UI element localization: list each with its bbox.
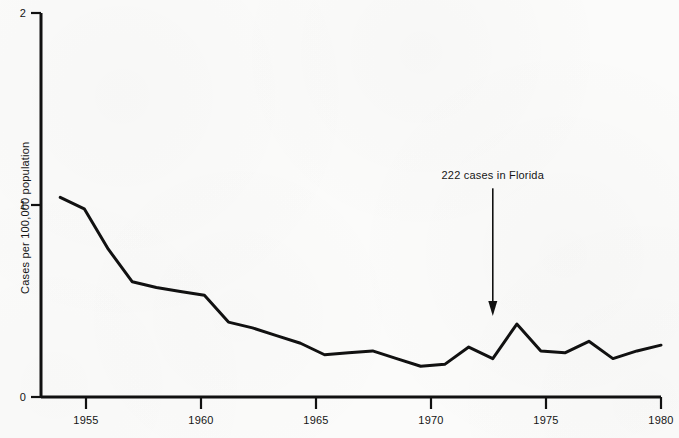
- y-axis-title: Cases per 100,000 population: [19, 142, 31, 294]
- line-chart-plot: [0, 0, 679, 438]
- x-tick-label-1980: 1980: [648, 414, 673, 426]
- x-tick-label-1970: 1970: [418, 414, 443, 426]
- y-tick-label-0: 0: [20, 391, 26, 403]
- axes: [41, 13, 661, 397]
- data-series-line: [60, 197, 661, 366]
- annotation-label-florida: 222 cases in Florida: [442, 169, 544, 181]
- y-tick-label-2: 2: [20, 7, 26, 19]
- x-tick-label-1960: 1960: [188, 414, 213, 426]
- annotation-arrow-head: [488, 301, 497, 316]
- chart-figure: 2 1 0 1955 1960 1965 1970 1975 1980 Case…: [0, 0, 679, 438]
- x-tick-label-1965: 1965: [303, 414, 328, 426]
- x-tick-label-1975: 1975: [533, 414, 558, 426]
- annotation-arrow: [488, 188, 497, 316]
- x-tick-label-1955: 1955: [73, 414, 98, 426]
- x-axis-ticks: [86, 397, 661, 409]
